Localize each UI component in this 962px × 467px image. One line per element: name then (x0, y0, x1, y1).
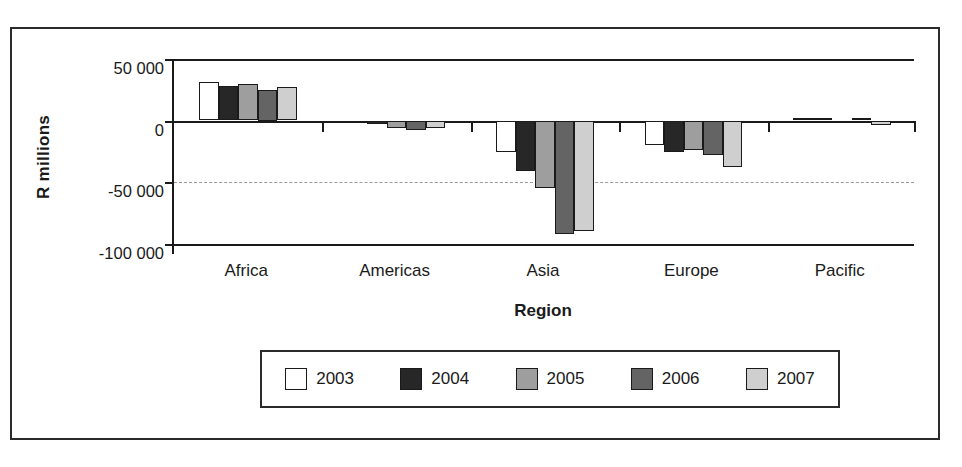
legend-label: 2005 (547, 369, 585, 389)
x-axis-category-label: Africa (172, 261, 320, 281)
bar[interactable] (387, 121, 407, 128)
bar[interactable] (852, 118, 872, 120)
bar[interactable] (426, 121, 446, 128)
chart-legend: 20032004200520062007 (260, 350, 840, 408)
bar[interactable] (277, 87, 297, 120)
bar[interactable] (832, 121, 852, 123)
bar[interactable] (574, 121, 594, 232)
bar[interactable] (871, 121, 891, 126)
category-separator-tick (619, 121, 621, 132)
bar[interactable] (367, 121, 387, 125)
bar[interactable] (555, 121, 575, 234)
legend-swatch (746, 368, 768, 390)
bar[interactable] (238, 84, 258, 121)
bar[interactable] (684, 121, 704, 151)
bar[interactable] (199, 82, 219, 120)
category-separator-tick (322, 121, 324, 132)
bar-group (619, 59, 767, 254)
legend-label: 2007 (777, 369, 815, 389)
y-axis-tick-mark (165, 182, 174, 184)
bar[interactable] (723, 121, 743, 168)
y-axis-title-label: R millions (34, 114, 54, 198)
y-axis-tick-labels: 50 0000-50 000-100 000 (68, 59, 164, 254)
legend-item[interactable]: 2003 (285, 368, 354, 390)
bar[interactable] (516, 121, 536, 171)
y-axis-tick-mark (165, 121, 174, 123)
chart-figure: R millions 50 0000-50 000-100 000 Africa… (10, 27, 940, 440)
legend-item[interactable]: 2007 (746, 368, 815, 390)
bar[interactable] (793, 118, 813, 120)
bar[interactable] (645, 121, 665, 146)
bar-groups (174, 59, 914, 254)
legend-item[interactable]: 2004 (400, 368, 469, 390)
category-separator-tick (768, 121, 770, 132)
y-tick-label-text: -100 000 (99, 244, 164, 263)
y-axis-tick-mark (165, 244, 174, 246)
bar[interactable] (496, 121, 516, 153)
x-axis-category-label: Asia (469, 261, 617, 281)
legend-item[interactable]: 2006 (631, 368, 700, 390)
bar[interactable] (219, 86, 239, 120)
legend-label: 2006 (662, 369, 700, 389)
x-axis-category-label: Pacific (766, 261, 914, 281)
y-tick-label-text: 0 (155, 121, 164, 140)
legend-item[interactable]: 2005 (516, 368, 585, 390)
bar[interactable] (406, 121, 426, 131)
legend-swatch (631, 368, 653, 390)
bar[interactable] (258, 90, 278, 121)
bar[interactable] (703, 121, 723, 155)
y-tick-label-text: -50 000 (108, 182, 164, 201)
legend-label: 2004 (431, 369, 469, 389)
plot-area (172, 59, 914, 254)
category-separator-tick (471, 121, 473, 132)
x-axis-title: Region (172, 301, 914, 321)
bar-group (174, 59, 322, 254)
bar-group (768, 59, 916, 254)
y-tick-label-text: 50 000 (114, 59, 164, 78)
bar[interactable] (535, 121, 555, 189)
legend-swatch (285, 368, 307, 390)
x-axis-category-label: Americas (320, 261, 468, 281)
y-axis-tick-mark (165, 59, 174, 61)
x-axis-category-labels: AfricaAmericasAsiaEuropePacific (172, 261, 914, 287)
x-axis-category-label: Europe (617, 261, 765, 281)
bar[interactable] (813, 118, 833, 120)
y-axis-title: R millions (30, 59, 58, 254)
bar[interactable] (348, 121, 368, 123)
legend-swatch (516, 368, 538, 390)
bar-group (471, 59, 619, 254)
legend-swatch (400, 368, 422, 390)
category-separator-tick (914, 121, 916, 132)
legend-label: 2003 (316, 369, 354, 389)
bar-group (322, 59, 470, 254)
bar[interactable] (664, 121, 684, 153)
